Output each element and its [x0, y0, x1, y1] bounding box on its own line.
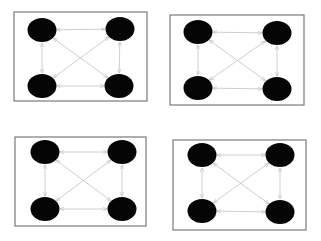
- node-tl: [184, 20, 213, 44]
- node-bl: [184, 76, 213, 100]
- node-tr: [106, 17, 135, 41]
- node-tr: [108, 140, 137, 164]
- edge-arrow-tl-tr: [213, 32, 262, 33]
- edge-arrow-tl-tr: [57, 29, 105, 30]
- node-bl: [28, 74, 57, 98]
- edge-arrow-bl-br: [213, 88, 262, 89]
- node-tl: [28, 18, 57, 42]
- node-bl: [31, 197, 60, 221]
- edge-arrow-tr-br: [119, 42, 120, 73]
- node-bl: [188, 199, 217, 223]
- node-tl: [31, 140, 60, 164]
- graph-panel-1: [14, 12, 147, 101]
- node-tr: [263, 21, 292, 45]
- node-br: [105, 74, 134, 98]
- edge-arrow-bl-br: [217, 211, 265, 212]
- node-br: [263, 77, 292, 101]
- graph-panel-4: [173, 140, 306, 230]
- node-br: [108, 197, 137, 221]
- graph-panel-3: [15, 137, 146, 226]
- diagram-canvas: [0, 0, 321, 241]
- graph-panel-2: [170, 15, 304, 105]
- node-br: [266, 200, 295, 224]
- node-tr: [266, 143, 295, 167]
- node-tl: [188, 143, 217, 167]
